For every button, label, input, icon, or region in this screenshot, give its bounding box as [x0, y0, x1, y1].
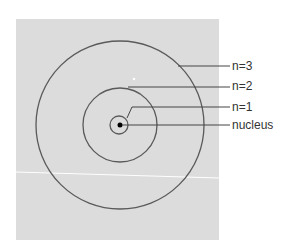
label-nucleus: nucleus	[232, 119, 273, 131]
label-n3: n=3	[232, 60, 252, 72]
speck	[133, 78, 135, 80]
label-n2: n=2	[232, 80, 252, 92]
label-n1: n=1	[232, 101, 252, 113]
nucleus-dot	[118, 123, 123, 128]
leader-n1	[127, 107, 230, 118]
